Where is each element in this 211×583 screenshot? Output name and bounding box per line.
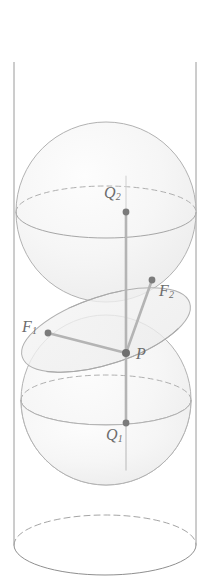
- label-F1-subscript: 1: [32, 325, 37, 336]
- point-dot-F2[interactable]: [149, 277, 156, 284]
- upper-sphere-outline: [16, 122, 196, 302]
- label-Q2: Q2: [104, 184, 121, 202]
- dandelin-spheres-svg: [0, 0, 211, 583]
- label-F2-subscript: 2: [169, 289, 174, 300]
- label-F1-base: F: [22, 318, 32, 335]
- label-Q2-base: Q: [104, 184, 116, 201]
- label-Q1-base: Q: [106, 426, 118, 443]
- label-F2-base: F: [159, 282, 169, 299]
- point-dot-Q2[interactable]: [123, 209, 130, 216]
- point-dot-Q1[interactable]: [123, 420, 130, 427]
- label-P: P: [136, 345, 146, 363]
- label-F2: F2: [159, 282, 174, 300]
- label-P-base: P: [136, 345, 146, 362]
- label-Q1-subscript: 1: [118, 433, 123, 444]
- label-Q1: Q1: [106, 426, 123, 444]
- point-dot-F1[interactable]: [45, 330, 52, 337]
- point-dot-P[interactable]: [122, 349, 130, 357]
- label-F1: F1: [22, 318, 37, 336]
- label-Q2-subscript: 2: [116, 191, 121, 202]
- geometry-figure: Q2 F2 F1 P Q1: [0, 0, 211, 583]
- upper-sphere: [16, 122, 196, 302]
